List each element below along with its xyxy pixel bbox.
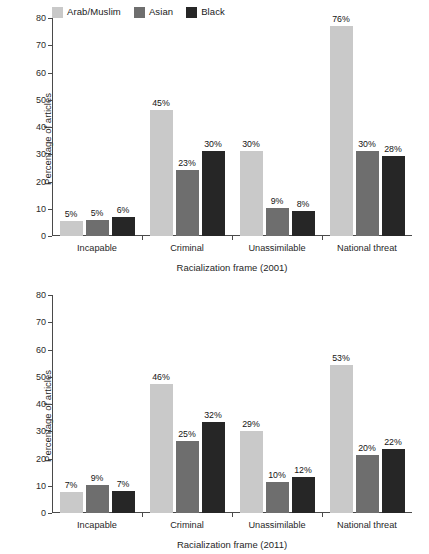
bar-value-label: 23%	[178, 158, 196, 168]
bar-value-label: 25%	[178, 429, 196, 439]
x-axis-category-label: Unassimilable	[232, 520, 322, 530]
bar	[266, 208, 289, 236]
bar-column: 30%	[240, 18, 263, 236]
bar-value-label: 30%	[204, 139, 222, 149]
y-axis-tick	[48, 236, 52, 237]
bar-value-label: 5%	[91, 208, 104, 218]
legend-item-0: Arab/Muslim	[52, 7, 121, 18]
legend-swatch-icon	[52, 7, 63, 18]
bar	[266, 482, 289, 513]
x-axis-tick	[142, 513, 143, 517]
bar	[112, 491, 135, 513]
legend-label: Asian	[149, 7, 173, 17]
x-axis-category-label: National threat	[322, 243, 412, 253]
bar-column: 20%	[356, 295, 379, 513]
y-axis-tick-label: 50	[36, 95, 46, 105]
y-axis-tick	[48, 513, 52, 514]
bar-column: 9%	[266, 18, 289, 236]
y-axis-tick-label: 0	[41, 508, 46, 518]
bar-value-label: 6%	[117, 205, 130, 215]
bar	[292, 211, 315, 236]
bar-value-label: 9%	[271, 196, 284, 206]
x-axis-category-label: Criminal	[142, 520, 232, 530]
bar	[60, 492, 83, 513]
bar	[356, 455, 379, 513]
bar-value-label: 7%	[117, 479, 130, 489]
bar	[240, 431, 263, 513]
x-axis-tick	[142, 236, 143, 240]
y-axis-tick-label: 70	[36, 40, 46, 50]
bar-value-label: 9%	[91, 473, 104, 483]
y-axis-tick-label: 80	[36, 13, 46, 23]
bar-value-label: 29%	[242, 419, 260, 429]
bar-column: 45%	[150, 18, 173, 236]
x-axis-category-label: Incapable	[52, 520, 142, 530]
y-axis-tick-label: 0	[41, 231, 46, 241]
bar-column: 10%	[266, 295, 289, 513]
x-axis-category-label: Incapable	[52, 243, 142, 253]
bar-group: 45%23%30%Criminal	[142, 18, 232, 236]
y-axis-tick-label: 60	[36, 345, 46, 355]
bar-column: 5%	[60, 18, 83, 236]
bar-value-label: 32%	[204, 410, 222, 420]
bar-column: 30%	[356, 18, 379, 236]
y-axis-tick-label: 10	[36, 481, 46, 491]
x-axis-tick	[322, 236, 323, 240]
bar-set: 45%23%30%	[142, 18, 232, 236]
bar-set: 46%25%32%	[142, 295, 232, 513]
bar-group: 46%25%32%Criminal	[142, 295, 232, 513]
bar-column: 12%	[292, 295, 315, 513]
bar-value-label: 10%	[268, 470, 286, 480]
legend-label: Black	[201, 7, 225, 17]
bar-column: 6%	[112, 18, 135, 236]
bar	[202, 151, 225, 236]
y-axis-tick-label: 50	[36, 372, 46, 382]
x-axis-tick	[232, 236, 233, 240]
bar-column: 30%	[202, 18, 225, 236]
y-axis-tick-label: 60	[36, 68, 46, 78]
bar-groups: 5%5%6%Incapable45%23%30%Criminal30%9%8%U…	[52, 18, 412, 236]
bar-value-label: 7%	[65, 480, 78, 490]
bar-column: 28%	[382, 18, 405, 236]
bar	[150, 384, 173, 513]
bar-column: 76%	[330, 18, 353, 236]
bar-group: 76%30%28%National threat	[322, 18, 412, 236]
bar	[112, 217, 135, 236]
bar-value-label: 76%	[332, 14, 350, 24]
bar	[330, 365, 353, 513]
bar-value-label: 12%	[294, 465, 312, 475]
y-axis-tick-label: 30	[36, 426, 46, 436]
figure-racialization-frames: Arab/MuslimAsianBlackPercentage of artic…	[0, 0, 429, 554]
bar-column: 8%	[292, 18, 315, 236]
y-axis-tick-label: 30	[36, 149, 46, 159]
bar-groups: 7%9%7%Incapable46%25%32%Criminal29%10%12…	[52, 295, 412, 513]
bar	[382, 156, 405, 236]
y-axis-tick-label: 20	[36, 454, 46, 464]
legend-swatch-icon	[134, 7, 145, 18]
bar-set: 7%9%7%	[52, 295, 142, 513]
bar	[176, 170, 199, 236]
bar-value-label: 8%	[297, 199, 310, 209]
bar-value-label: 53%	[332, 353, 350, 363]
bar-group: 5%5%6%Incapable	[52, 18, 142, 236]
chart-panel-2001: Arab/MuslimAsianBlackPercentage of artic…	[0, 0, 429, 277]
bar	[356, 151, 379, 236]
x-axis-tick	[322, 513, 323, 517]
y-axis-tick-label: 20	[36, 177, 46, 187]
bar	[176, 441, 199, 513]
bar-group: 53%20%22%National threat	[322, 295, 412, 513]
bar-column: 29%	[240, 295, 263, 513]
y-axis-tick-label: 40	[36, 399, 46, 409]
bar-column: 46%	[150, 295, 173, 513]
bar-column: 53%	[330, 295, 353, 513]
x-axis-category-label: Unassimilable	[232, 243, 322, 253]
bar-set: 30%9%8%	[232, 18, 322, 236]
chart-legend: Arab/MuslimAsianBlack	[52, 5, 225, 19]
bar-column: 7%	[60, 295, 83, 513]
bar	[60, 221, 83, 236]
bar	[382, 449, 405, 513]
x-axis-category-label: Criminal	[142, 243, 232, 253]
plot-area: 010203040506070805%5%6%Incapable45%23%30…	[52, 18, 412, 236]
bar-column: 7%	[112, 295, 135, 513]
bar-value-label: 5%	[65, 209, 78, 219]
